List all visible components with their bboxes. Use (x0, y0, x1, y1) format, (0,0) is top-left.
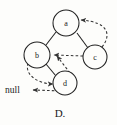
figure-caption: D. (55, 107, 66, 119)
node-d-label: d (63, 79, 67, 88)
diagram-canvas: a b c d null D. (0, 0, 117, 125)
node-a-label: a (64, 19, 68, 28)
node-d[interactable]: d (53, 71, 77, 95)
edge-a-c (77, 33, 88, 48)
node-a[interactable]: a (53, 10, 79, 36)
node-c-label: c (93, 53, 97, 62)
null-label: null (5, 85, 20, 95)
thread-d-b (57, 56, 70, 73)
threaded-binary-tree-figure: a b c d null D. (0, 0, 117, 125)
thread-c-b (54, 55, 83, 56)
solid-edge-group (46, 32, 88, 76)
edge-b-d (46, 64, 56, 76)
node-b[interactable]: b (24, 42, 50, 68)
node-c[interactable]: c (83, 45, 107, 69)
edge-a-b (46, 32, 56, 45)
node-b-label: b (35, 51, 39, 60)
